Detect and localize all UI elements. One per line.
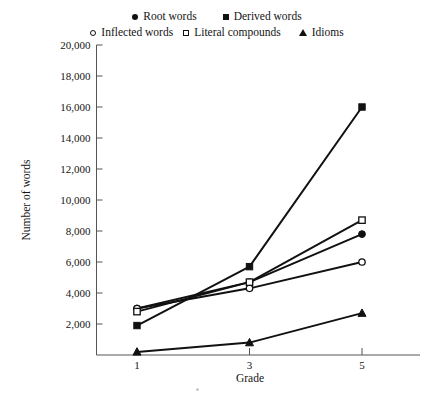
data-point-derived-words-grade-1 bbox=[134, 322, 140, 328]
x-axis-ticks: 135 bbox=[134, 348, 365, 371]
data-point-literal-compounds-grade-5 bbox=[359, 217, 365, 223]
data-series-layer bbox=[133, 104, 366, 355]
y-axis-tick-label: 20,000 bbox=[60, 39, 91, 51]
x-axis-tick-label: 3 bbox=[247, 359, 253, 371]
series-derived-words bbox=[134, 104, 365, 329]
data-point-literal-compounds-grade-3 bbox=[246, 279, 252, 285]
y-axis-tick-label: 2,000 bbox=[66, 318, 91, 330]
chart-container: Root words Derived words Inflected words… bbox=[0, 0, 434, 400]
y-axis-title: Number of words bbox=[20, 159, 32, 241]
series-line-derived-words bbox=[137, 107, 362, 326]
y-axis-tick-label: 8,000 bbox=[66, 225, 91, 237]
y-axis-tick-label: 14,000 bbox=[60, 132, 91, 144]
x-axis-title: Grade bbox=[236, 372, 264, 384]
chart-plot-area: 2,0004,0006,0008,00010,00012,00014,00016… bbox=[0, 0, 434, 400]
x-axis-tick-label: 5 bbox=[359, 359, 365, 371]
y-axis-tick-label: 4,000 bbox=[66, 287, 91, 299]
data-point-idioms-grade-5 bbox=[358, 309, 366, 316]
scan-artifact-dot bbox=[196, 388, 199, 391]
y-axis-tick-label: 12,000 bbox=[60, 163, 91, 175]
data-point-literal-compounds-grade-1 bbox=[134, 308, 140, 314]
series-line-root-words bbox=[137, 234, 362, 308]
data-point-derived-words-grade-3 bbox=[246, 263, 252, 269]
x-axis-tick-label: 1 bbox=[134, 359, 140, 371]
data-point-derived-words-grade-5 bbox=[359, 104, 365, 110]
y-axis-tick-label: 18,000 bbox=[60, 70, 91, 82]
y-axis-tick-label: 10,000 bbox=[60, 194, 91, 206]
y-axis-tick-label: 16,000 bbox=[60, 101, 91, 113]
series-root-words bbox=[134, 231, 366, 312]
data-point-root-words-grade-5 bbox=[359, 231, 366, 238]
data-point-inflected-words-grade-5 bbox=[359, 259, 365, 265]
y-axis-tick-label: 6,000 bbox=[66, 256, 91, 268]
data-point-inflected-words-grade-3 bbox=[246, 285, 252, 291]
